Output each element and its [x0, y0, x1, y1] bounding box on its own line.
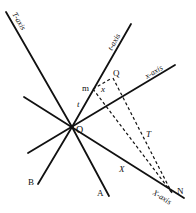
dashed-m-to-N — [93, 89, 172, 193]
T-axis-line — [6, 12, 72, 127]
T-axis-label: T-axis — [10, 11, 27, 32]
X-axis-line — [24, 97, 184, 198]
line-OB — [38, 127, 72, 184]
point-A-label: A — [97, 188, 104, 198]
origin-point — [70, 125, 74, 129]
segment-T-label: T — [146, 129, 152, 139]
line-OA — [72, 127, 109, 196]
point-B-label: B — [28, 177, 34, 187]
point-m-label: m — [82, 83, 89, 93]
segment-t-label: t — [77, 99, 80, 109]
segment-x-label: x — [100, 84, 105, 94]
point-O-label: O — [76, 124, 83, 135]
point-Q-label: Q — [113, 68, 120, 78]
x-axis-line — [28, 65, 175, 153]
t-axis-line — [72, 24, 131, 127]
spacetime-diagram: T-axis t-axis x-axis X-axis O m Q N A B … — [0, 0, 196, 213]
segment-X-label: X — [118, 164, 125, 174]
point-N-label: N — [177, 186, 184, 196]
dashed-Q-to-N — [113, 78, 172, 193]
